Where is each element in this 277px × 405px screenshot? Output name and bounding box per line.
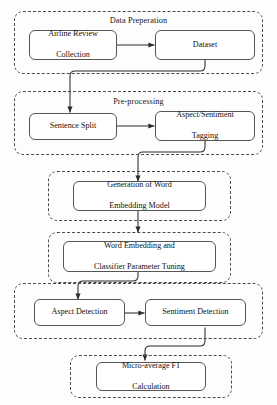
node-aspect-sentiment-tagging[interactable]: Aspect/SentimentTagging: [155, 111, 255, 141]
flowchart-diagram: Data Preperation Airline ReviewCollectio…: [0, 0, 277, 405]
node-aspect-sentiment-tagging-label: Aspect/SentimentTagging: [158, 110, 252, 141]
node-sentence-split-label: Sentence Split: [32, 121, 114, 131]
node-airline-review-collection-label: Airline ReviewCollection: [32, 29, 114, 60]
node-dataset[interactable]: Dataset: [155, 30, 255, 60]
node-aspect-detection-label: Aspect Detection: [37, 307, 122, 317]
node-aspect-detection[interactable]: Aspect Detection: [34, 299, 125, 326]
node-sentiment-detection[interactable]: Sentiment Detection: [145, 299, 246, 326]
node-word-embedding-model[interactable]: Generation of WordEmbedding Model: [73, 181, 206, 211]
node-micro-average-f1[interactable]: Micro-average F1Calculation: [96, 362, 206, 391]
node-sentence-split[interactable]: Sentence Split: [29, 113, 117, 140]
node-airline-review-collection[interactable]: Airline ReviewCollection: [29, 30, 117, 60]
node-sentiment-detection-label: Sentiment Detection: [148, 307, 243, 317]
group-data-preparation-title: Data Preperation: [15, 16, 262, 25]
node-dataset-label: Dataset: [158, 40, 252, 50]
node-micro-average-f1-label: Micro-average F1Calculation: [99, 361, 203, 392]
node-classifier-parameter-tuning[interactable]: Word Embedding andClassifier Parameter T…: [63, 241, 216, 272]
node-word-embedding-model-label: Generation of WordEmbedding Model: [76, 180, 203, 211]
node-classifier-parameter-tuning-label: Word Embedding andClassifier Parameter T…: [66, 241, 213, 272]
group-pre-processing-title: Pre-processing: [15, 97, 262, 106]
